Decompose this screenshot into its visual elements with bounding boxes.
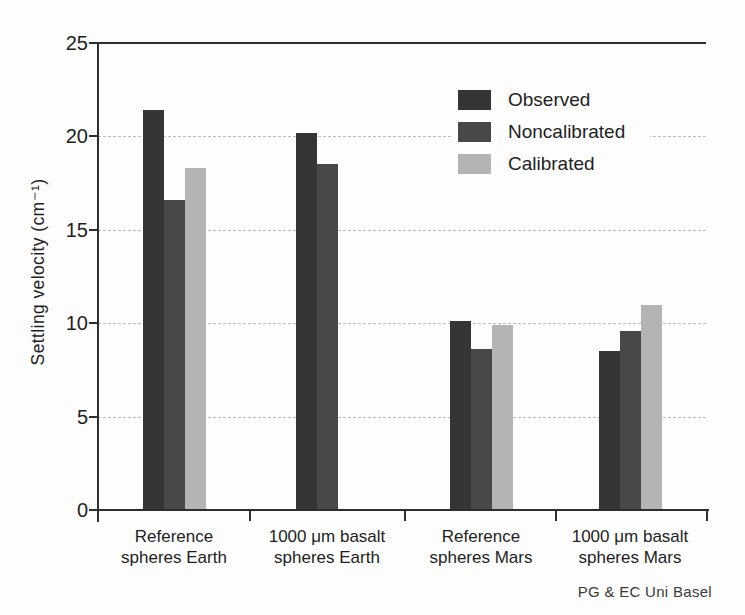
- top-frame-line: [98, 42, 706, 44]
- bar-observed-3: [599, 351, 620, 510]
- bar-calibrated-2: [492, 325, 513, 510]
- attribution-text: PG & EC Uni Basel: [578, 583, 712, 600]
- y-tick-label-5: 5: [46, 405, 88, 429]
- bar-observed-1: [296, 133, 317, 510]
- y-tick-label-0: 0: [46, 498, 88, 522]
- y-tick-label-15: 15: [46, 218, 88, 242]
- x-axis-tick-2: [555, 510, 557, 521]
- y-tick-label-25: 25: [46, 31, 88, 55]
- legend-swatch-observed: [458, 90, 491, 110]
- bar-observed-0: [143, 110, 164, 510]
- chart-canvas: Settling velocity (cm⁻¹) 0510152025Refer…: [0, 0, 745, 615]
- x-axis-tick-1: [404, 510, 406, 521]
- legend-label-calibrated: Calibrated: [508, 153, 595, 175]
- x-axis-tick-3: [706, 510, 708, 521]
- legend-item-calibrated: Calibrated: [458, 154, 650, 174]
- x-axis-tick-0: [249, 510, 251, 521]
- bar-observed-2: [450, 321, 471, 510]
- bar-noncalibrated-2: [471, 349, 492, 510]
- x-axis-baseline: [97, 509, 709, 511]
- bar-noncalibrated-0: [164, 200, 185, 510]
- legend-item-observed: Observed: [458, 90, 650, 110]
- bar-calibrated-0: [185, 168, 206, 510]
- bar-noncalibrated-3: [620, 331, 641, 510]
- y-tick-label-10: 10: [46, 311, 88, 335]
- legend-swatch-noncalibrated: [458, 122, 491, 142]
- legend-item-noncalibrated: Noncalibrated: [458, 122, 650, 142]
- legend-swatch-calibrated: [458, 154, 491, 174]
- legend: ObservedNoncalibratedCalibrated: [452, 86, 650, 178]
- legend-label-observed: Observed: [508, 89, 590, 111]
- bar-noncalibrated-1: [317, 164, 338, 510]
- y-tick-label-20: 20: [46, 124, 88, 148]
- bar-calibrated-3: [641, 305, 662, 510]
- x-category-label-3: 1000 μm basalt spheres Mars: [535, 526, 725, 568]
- y-axis-spine: [97, 42, 99, 522]
- legend-label-noncalibrated: Noncalibrated: [508, 121, 625, 143]
